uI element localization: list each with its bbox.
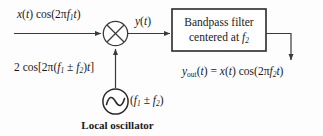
input-signal-label: x(t) cos(2πf1t) (17, 9, 81, 21)
filter-line-2: centered at f2 (189, 30, 249, 45)
oscillator-drive-label: 2 cos[2π(f1 ± f2)t] (14, 62, 94, 74)
block-diagram: x(t) cos(2πf1t) y(t) Bandpass filter cen… (0, 0, 323, 136)
wire-filter-output (266, 34, 291, 61)
bandpass-filter-text: Bandpass filter centered at f2 (172, 9, 266, 51)
local-oscillator-caption: Local oscillator (0, 120, 235, 131)
mixer-output-label: y(t) (135, 16, 151, 28)
output-signal-label: yout(t) = x(t) cos(2πf2t) (182, 66, 283, 78)
oscillator-frequency-label: (f1 ± f2) (130, 95, 164, 107)
filter-line-1: Bandpass filter (184, 15, 253, 30)
